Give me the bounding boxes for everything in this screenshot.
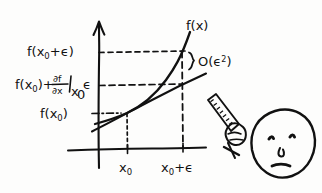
y-label-bottom-close: ) <box>63 106 68 121</box>
dashdot-leader-bottom <box>92 113 121 114</box>
x-label-x0-eps: x0+ϵ <box>161 160 193 177</box>
curve-label-close: ) <box>203 18 208 33</box>
y-label-top: f(x0+ϵ) <box>27 44 74 61</box>
y-label-bottom: f(x0) <box>40 106 68 123</box>
curly-brace <box>189 53 194 70</box>
function-curve <box>95 32 190 124</box>
x-label-x0-sub: 0 <box>127 167 132 177</box>
x-label-x0-eps-tail: +ϵ <box>174 160 193 175</box>
y-label-middle: f(x0)+ ∂f ∂x x 0 ϵ <box>15 73 91 102</box>
hand-thumb <box>228 133 241 135</box>
svg-text:f(x0)+: f(x0)+ <box>15 77 54 94</box>
vertical-axis <box>99 24 100 168</box>
right-eye <box>290 135 295 137</box>
dotted-vertical-x0 <box>127 114 128 150</box>
curve-label: f(x) <box>186 18 208 33</box>
derivative-denominator: ∂x <box>52 85 63 96</box>
error-term-label: O(ϵ2) <box>198 54 231 69</box>
tangent-line <box>92 74 206 132</box>
dashed-leader-middle <box>99 84 182 86</box>
y-label-middle-epsilon: ϵ <box>83 77 91 92</box>
hand-knuckle <box>230 139 243 140</box>
error-term-head: O(ϵ <box>198 54 221 69</box>
left-eye <box>269 137 274 139</box>
brace-group <box>189 53 194 70</box>
nose <box>278 148 284 157</box>
y-label-bottom-f: f( <box>40 106 50 121</box>
x-label-x0: x0 <box>119 160 132 177</box>
ruler <box>208 94 239 131</box>
dashed-vertical-x0-eps <box>182 52 183 149</box>
error-term-close: ) <box>226 54 231 69</box>
y-label-top-tail: +ϵ) <box>50 44 74 59</box>
leader-lines-group <box>92 51 186 114</box>
face-outline <box>251 110 315 178</box>
face <box>251 110 315 178</box>
y-label-top-f: f( <box>27 44 37 59</box>
curve-label-f: f( <box>186 18 196 33</box>
y-label-middle-f: f( <box>15 77 25 92</box>
figure-canvas: f(x0+ϵ) f(x0)+ ∂f ∂x x 0 ϵ f(x0) f(x) O(… <box>0 0 322 193</box>
derivative-numerator: ∂f <box>53 73 62 84</box>
horizontal-axis <box>68 148 206 151</box>
dashed-leader-top <box>99 51 186 53</box>
mouth <box>272 164 290 166</box>
plot-group <box>92 32 206 132</box>
